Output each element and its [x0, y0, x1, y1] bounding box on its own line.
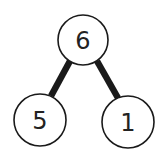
whole-label: 6	[75, 27, 90, 55]
whole-node: 6	[58, 15, 108, 65]
edge-whole-to-left-part	[51, 61, 70, 96]
right-part-label: 1	[120, 109, 135, 137]
left-part-node: 5	[14, 94, 66, 146]
right-part-node: 1	[102, 96, 154, 148]
edge-whole-to-right-part	[97, 61, 118, 98]
number-bond-diagram: 6 5 1	[0, 0, 166, 163]
left-part-label: 5	[32, 107, 47, 135]
